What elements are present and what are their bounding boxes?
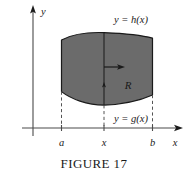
lower-curve-label: y = g(x) bbox=[113, 113, 148, 125]
figure-caption: FIGURE 17 bbox=[61, 156, 128, 171]
tick-label-b: b bbox=[150, 137, 155, 148]
x-axis-label: x bbox=[172, 137, 178, 148]
figure-container: y x y = h(x) y = g(x) R a x b FIGURE 17 bbox=[0, 0, 189, 175]
figure-graphic: y x y = h(x) y = g(x) R a x b FIGURE 17 bbox=[0, 0, 189, 175]
region-group bbox=[62, 33, 153, 106]
tick-label-a: a bbox=[59, 137, 64, 148]
tick-label-x: x bbox=[101, 137, 107, 148]
y-axis-label: y bbox=[40, 6, 46, 17]
upper-curve-label: y = h(x) bbox=[113, 14, 148, 26]
region-label: R bbox=[124, 79, 132, 91]
region-shape bbox=[62, 33, 153, 106]
